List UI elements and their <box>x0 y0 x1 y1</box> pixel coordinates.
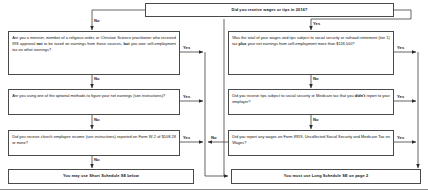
node-minister-question: Are you a minister, member of a religiou… <box>8 31 180 75</box>
edge-label-total-no: No <box>313 76 319 81</box>
node-church-income-question: Did you receive church employee income (… <box>8 130 180 156</box>
edge-label-tips-no: No <box>313 117 319 122</box>
node-result-short-schedule: You may use Short Schedule SE below <box>8 169 194 184</box>
tips-emphasis-didnt: didn't <box>355 93 366 98</box>
node-unreported-tips-question: Did you receive tips subject to social s… <box>228 89 394 115</box>
edge-label-total-yes: Yes <box>397 45 404 50</box>
node-result-long-schedule: You must use Long Schedule SE on page 2 <box>231 169 421 184</box>
node-form-8919-question: Did you report any wages on Form 8919, U… <box>228 130 394 156</box>
edge-label-form-8919-no: No <box>211 135 217 140</box>
edge-label-optional-yes: Yes <box>183 94 190 99</box>
edge-label-form-8919-yes: Yes <box>397 135 404 140</box>
total-emphasis-plus: plus <box>239 41 247 46</box>
bottom-divider <box>0 189 428 190</box>
total-text-part2: your net earnings from self-employment m… <box>247 41 355 46</box>
edge-label-minister-yes: Yes <box>183 45 190 50</box>
edge-label-church-yes: Yes <box>183 135 190 140</box>
node-optional-methods-question: Are you using one of the optional method… <box>8 89 180 115</box>
node-total-wages-question: Was the total of your wages and tips sub… <box>228 31 394 75</box>
edge-label-church-no: No <box>94 157 100 162</box>
edge-label-optional-no: No <box>94 117 100 122</box>
tips-text-part1: Did you receive tips subject to social s… <box>232 93 355 98</box>
edge-label-wages-no: No <box>94 18 100 23</box>
edge-label-minister-no: No <box>94 76 100 81</box>
minister-text-part2: to be taxed on earnings from these sourc… <box>43 41 124 46</box>
edge-label-wages-yes: Yes <box>313 21 320 26</box>
edge-label-tips-yes: Yes <box>397 94 404 99</box>
node-wages-question: Did you receive wages or tips in 2016? <box>145 3 394 17</box>
schedule-se-flowchart: Did you receive wages or tips in 2016? A… <box>0 0 428 194</box>
